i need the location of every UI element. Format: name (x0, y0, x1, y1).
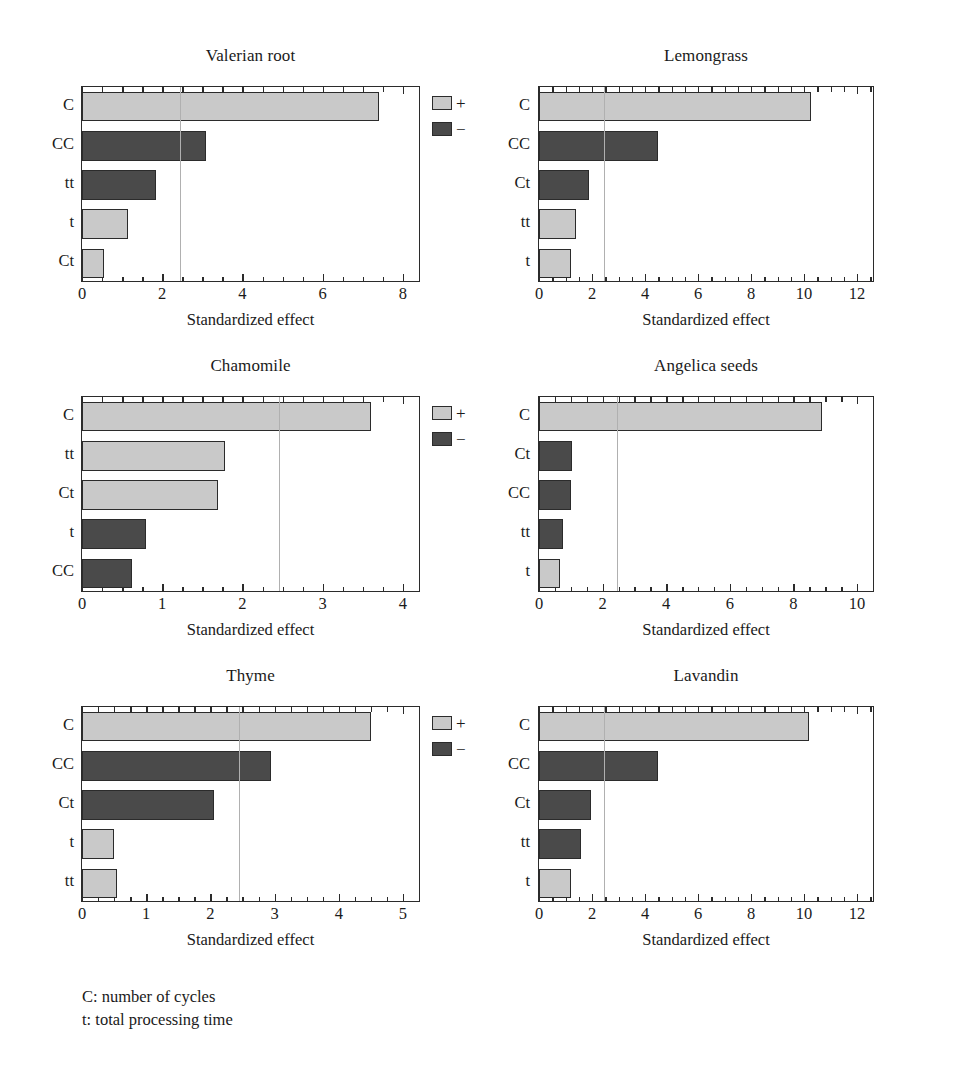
bar-tt (539, 519, 563, 549)
x-tick-label: 10 (796, 904, 813, 924)
x-axis-label: Standardized effect (538, 620, 874, 640)
reference-line (180, 87, 181, 281)
category-label-C: C (8, 717, 74, 734)
x-tick-label: 0 (78, 284, 86, 304)
legend-swatch-positive (432, 406, 452, 420)
category-label-C: C (478, 717, 530, 734)
x-axis-label: Standardized effect (538, 930, 874, 950)
category-label-CC: CC (8, 136, 74, 153)
bar-row (82, 170, 419, 200)
bar-Ct (539, 441, 572, 471)
legend-label-negative: − (456, 431, 466, 448)
bar-C (82, 402, 371, 432)
bar-row (82, 712, 419, 742)
category-label-CC: CC (8, 756, 74, 773)
bar-row (82, 751, 419, 781)
bar-row (539, 751, 873, 781)
x-tick-label: 0 (78, 594, 86, 614)
category-label-tt: tt (8, 446, 74, 463)
x-tick-label: 10 (849, 594, 866, 614)
bar-tt (539, 209, 576, 239)
x-tick-labels: 0246810 (539, 591, 873, 615)
bar-t (539, 559, 560, 589)
x-tick-label: 4 (399, 594, 407, 614)
reference-line (604, 707, 605, 901)
bar-C (539, 92, 811, 122)
category-label-tt: tt (478, 214, 530, 231)
x-axis-label: Standardized effect (81, 930, 420, 950)
legend-swatch-negative (432, 742, 452, 756)
legend-label-positive: + (456, 715, 466, 732)
bar-C (539, 402, 822, 432)
x-tick-label: 10 (796, 284, 813, 304)
x-tick-label: 4 (641, 284, 649, 304)
x-axis-label: Standardized effect (538, 310, 874, 330)
category-label-Ct: Ct (8, 795, 74, 812)
bar-CC (539, 751, 658, 781)
bar-series (82, 397, 419, 591)
bar-series (539, 707, 873, 901)
pareto-panel: ChamomileCttCttCC01234Standardized effec… (0, 350, 478, 660)
bar-series (539, 397, 873, 591)
footnote-line-c: C: number of cycles (82, 985, 233, 1008)
bar-row (82, 441, 419, 471)
panel-title: Valerian root (81, 46, 420, 66)
category-label-CC: CC (478, 485, 530, 502)
legend: +− (432, 712, 466, 764)
bar-t (82, 519, 146, 549)
x-tick-label: 8 (747, 904, 755, 924)
category-label-t: t (478, 563, 530, 580)
bar-tt (82, 170, 156, 200)
panel-title: Lemongrass (538, 46, 874, 66)
category-label-C: C (478, 407, 530, 424)
bar-series (82, 87, 419, 281)
category-label-tt: tt (478, 834, 530, 851)
category-label-tt: tt (8, 175, 74, 192)
legend-item-negative: − (432, 738, 466, 760)
x-tick-label: 3 (319, 594, 327, 614)
bar-row (82, 249, 419, 279)
pareto-panel: Angelica seedsCCtCCttt0246810Standardize… (478, 350, 956, 660)
x-tick-label: 4 (641, 904, 649, 924)
category-label-t: t (8, 834, 74, 851)
x-tick-label: 2 (598, 594, 606, 614)
x-tick-label: 12 (849, 904, 866, 924)
bar-tt (539, 829, 581, 859)
pareto-chart-grid: Valerian rootCCCtttCt02468Standardized e… (0, 40, 957, 970)
x-tick-label: 0 (535, 594, 543, 614)
bar-row (82, 209, 419, 239)
x-tick-label: 2 (238, 594, 246, 614)
legend-label-negative: − (456, 121, 466, 138)
legend-item-positive: + (432, 92, 466, 114)
x-tick-label: 8 (399, 284, 407, 304)
bar-row (82, 519, 419, 549)
legend-item-negative: − (432, 428, 466, 450)
panel-title: Thyme (81, 666, 420, 686)
bar-row (539, 712, 873, 742)
bar-t (82, 209, 128, 239)
bar-row (539, 790, 873, 820)
x-tick-labels: 01234 (82, 591, 419, 615)
category-label-C: C (8, 407, 74, 424)
x-tick-label: 4 (335, 904, 343, 924)
x-tick-label: 2 (588, 284, 596, 304)
bar-Ct (539, 170, 589, 200)
bar-Ct (82, 249, 104, 279)
bar-row (82, 480, 419, 510)
x-tick-label: 12 (849, 284, 866, 304)
plot-area: 024681012 (538, 706, 874, 902)
category-label-t: t (8, 524, 74, 541)
legend-item-negative: − (432, 118, 466, 140)
category-label-tt: tt (478, 524, 530, 541)
pareto-panel: LemongrassCCCCtttt024681012Standardized … (478, 40, 956, 350)
x-tick-label: 6 (726, 594, 734, 614)
bar-CC (539, 480, 571, 510)
x-tick-label: 1 (158, 594, 166, 614)
legend-swatch-positive (432, 96, 452, 110)
x-tick-label: 6 (694, 904, 702, 924)
plot-area: 0246810 (538, 396, 874, 592)
panel-title: Lavandin (538, 666, 874, 686)
reference-line (239, 707, 240, 901)
category-label-Ct: Ct (8, 485, 74, 502)
pareto-panel: LavandinCCCCtttt024681012Standardized ef… (478, 660, 956, 970)
